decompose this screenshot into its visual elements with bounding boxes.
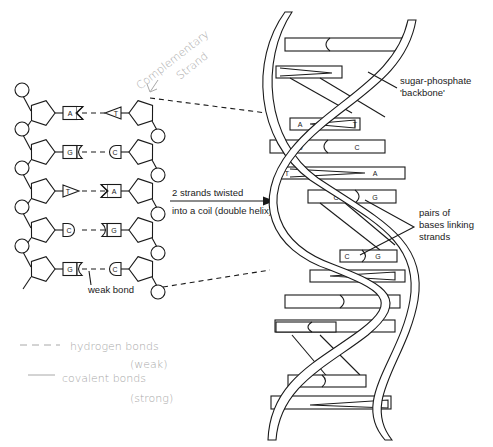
base-G-left-1: G — [63, 146, 82, 159]
svg-text:C: C — [112, 266, 117, 273]
svg-text:T: T — [353, 121, 358, 128]
svg-text:A: A — [68, 110, 73, 117]
pairs-label-line2: bases linking — [419, 219, 474, 230]
svg-text:T: T — [66, 188, 71, 195]
pairs-label-line1: pairs of — [419, 207, 451, 218]
arrow-label-line1: 2 strands twisted — [172, 187, 243, 198]
svg-text:C: C — [344, 253, 349, 260]
base-C-right-1: C — [110, 146, 121, 159]
base-C-left-3: C — [63, 224, 75, 237]
svg-text:T: T — [114, 110, 119, 117]
legend-hydrogen-sub: (weak) — [130, 358, 167, 371]
svg-text:A: A — [112, 188, 117, 195]
phosphate-icon — [151, 129, 165, 143]
svg-text:C: C — [112, 149, 117, 156]
handwritten-legend: hydrogen bonds (weak) covalent bonds (st… — [20, 340, 173, 405]
svg-text:G: G — [67, 149, 72, 156]
svg-text:C: C — [354, 144, 359, 151]
svg-text:C: C — [66, 227, 71, 234]
arrow-label-line2: into a coil (double helix) — [172, 205, 272, 216]
strand-row — [15, 122, 165, 182]
twist-arrow: 2 strands twisted into a coil (double he… — [170, 187, 275, 216]
pairs-label-line3: strands — [419, 231, 450, 242]
svg-text:G: G — [67, 266, 72, 273]
backbone-label-line1: sugar-phosphate — [400, 75, 471, 86]
weak-bond-label: weak bond — [87, 284, 134, 295]
base-C-right-4: C — [110, 263, 121, 276]
base-G-left-4: G — [63, 263, 82, 276]
sugar-pentagon-icon — [27, 214, 58, 244]
phosphate-icon — [15, 122, 29, 136]
phosphate-icon — [15, 161, 29, 175]
svg-text:G: G — [375, 253, 380, 260]
weak-bond-leader — [89, 271, 91, 285]
legend-covalent-label: covalent bonds — [62, 372, 146, 385]
backbone-label-line2: 'backbone' — [400, 87, 445, 98]
phosphate-icon — [151, 285, 165, 299]
strand-row — [15, 161, 165, 221]
nucleotide-strands: ATGCTACGGC — [15, 83, 165, 299]
sugar-pentagon-icon — [27, 175, 58, 205]
sugar-pentagon-icon — [27, 136, 58, 166]
legend-covalent-sub: (strong) — [130, 392, 173, 405]
base-T-left-2: T — [63, 185, 79, 197]
projection-line-top — [150, 98, 274, 114]
projection-line-bottom — [163, 270, 270, 287]
handwritten-complementary-note: Complementary Strand — [134, 28, 212, 93]
phosphate-icon — [15, 200, 29, 214]
svg-text:G: G — [372, 194, 377, 201]
sugar-pentagon-icon — [27, 253, 58, 283]
svg-text:A: A — [373, 170, 378, 177]
phosphate-icon — [15, 83, 29, 97]
phosphate-icon — [151, 168, 165, 182]
phosphate-icon — [151, 246, 165, 260]
legend-hydrogen-label: hydrogen bonds — [70, 340, 159, 353]
sugar-pentagon-icon — [27, 97, 58, 127]
strand-row — [15, 200, 165, 260]
phosphate-icon — [15, 239, 29, 253]
svg-text:G: G — [111, 227, 116, 234]
base-A-left-0: A — [63, 107, 83, 120]
svg-text:A: A — [298, 121, 303, 128]
strand-row — [15, 83, 165, 143]
double-helix: A T G C T A C G C G — [263, 12, 474, 440]
dna-diagram: ATGCTACGGC weak bond Complementary Stran… — [0, 0, 493, 447]
phosphate-icon — [151, 207, 165, 221]
base-T-right-0: T — [105, 107, 121, 119]
